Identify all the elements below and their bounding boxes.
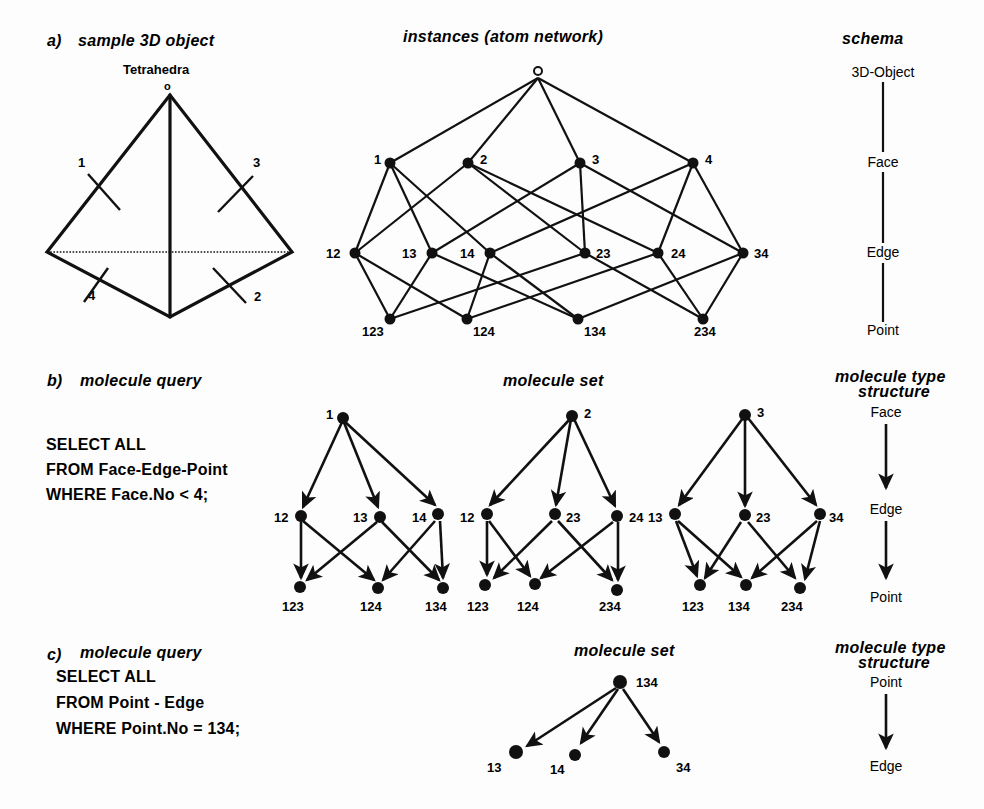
type-structure-c-node-point: Point	[836, 674, 936, 690]
type-structure-c-node-edge: Edge	[836, 758, 936, 774]
figure-page: a) sample 3D object instances (atom netw…	[0, 0, 984, 809]
